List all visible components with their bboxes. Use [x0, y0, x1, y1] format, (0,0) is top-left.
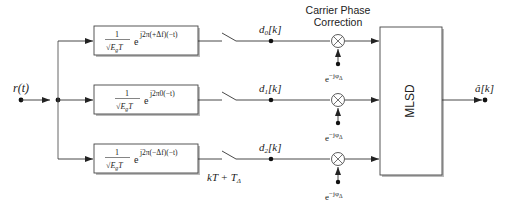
svg-text:e−jφΔ: e−jφΔ	[325, 72, 343, 84]
svg-text:e: e	[144, 95, 149, 106]
multiplier-0: e−jφΔ	[325, 35, 379, 85]
matched-filter-0: 1 √EgT e j2π(+Δf)(−t)	[94, 26, 200, 57]
svg-text:j2π0(−t): j2π0(−t)	[149, 89, 175, 98]
svg-text:e: e	[134, 154, 139, 165]
matched-filter-1: 1 √EgT e j2π0(−t)	[94, 85, 200, 116]
svg-text:√EgT: √EgT	[106, 43, 123, 53]
svg-text:e−jφΔ: e−jφΔ	[325, 190, 343, 202]
output-label: â[k]	[475, 82, 494, 94]
mlsd-label: MLSD	[403, 84, 417, 118]
branch-output-2: d2[k]	[259, 141, 281, 161]
svg-text:1: 1	[115, 148, 119, 157]
phase-correction-title-1: Carrier Phase	[306, 4, 371, 16]
output-node: â[k]	[442, 82, 494, 102]
mlsd-block: MLSD	[380, 27, 444, 177]
svg-text:j2π(−Δf)(−t): j2π(−Δf)(−t)	[139, 148, 178, 157]
input-label: r(t)	[13, 81, 29, 95]
svg-text:1: 1	[125, 89, 129, 98]
branch-output-1: d1[k]	[259, 82, 281, 102]
matched-filter-2: 1 √EgT e j2π(−Δf)(−t)	[94, 144, 200, 175]
svg-text:d2[k]: d2[k]	[259, 141, 281, 155]
svg-text:e−jφΔ: e−jφΔ	[325, 131, 343, 143]
svg-text:d1[k]: d1[k]	[259, 82, 281, 96]
svg-text:e: e	[134, 36, 139, 47]
svg-text:√EgT: √EgT	[116, 102, 133, 112]
multiplier-1: e−jφΔ	[325, 94, 379, 144]
sampling-time-label: kT + TΔ	[207, 171, 241, 185]
svg-text:d0[k]: d0[k]	[259, 23, 281, 37]
branch-output-0: d0[k]	[259, 23, 281, 43]
phase-correction-title-2: Correction	[314, 16, 363, 28]
input-node: r(t)	[13, 41, 93, 159]
svg-text:√EgT: √EgT	[106, 161, 123, 171]
block-diagram: r(t) 1 √EgT e j2π(+Δf)(−t) 1 √EgT e j2π0…	[0, 0, 507, 208]
svg-text:1: 1	[115, 30, 119, 39]
multiplier-2: e−jφΔ	[325, 153, 379, 203]
svg-text:j2π(+Δf)(−t): j2π(+Δf)(−t)	[139, 30, 178, 39]
